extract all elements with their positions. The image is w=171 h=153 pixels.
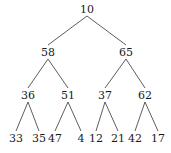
- tree-node: 37: [98, 90, 112, 101]
- tree-edges: [0, 0, 171, 153]
- tree-node: 12: [89, 133, 103, 144]
- tree-node: 33: [9, 133, 23, 144]
- tree-node: 35: [32, 133, 46, 144]
- tree-edge: [48, 59, 68, 88]
- tree-node: 65: [119, 47, 133, 58]
- tree-node: 47: [48, 133, 62, 144]
- tree-edge: [16, 102, 28, 131]
- tree-node: 4: [78, 133, 85, 144]
- tree-edge: [55, 102, 68, 131]
- tree-node: 62: [138, 90, 152, 101]
- tree-node: 51: [61, 90, 75, 101]
- tree-edge: [105, 102, 118, 131]
- tree-edge: [87, 16, 126, 45]
- tree-edge: [96, 102, 105, 131]
- tree-edge: [28, 59, 48, 88]
- tree-edge: [48, 16, 87, 45]
- tree-node: 36: [21, 90, 35, 101]
- tree-edge: [28, 102, 39, 131]
- tree-node: 42: [128, 133, 142, 144]
- tree-edge: [145, 102, 158, 131]
- tree-edge: [105, 59, 126, 88]
- tree-edge: [126, 59, 145, 88]
- tree-node: 10: [80, 4, 94, 15]
- tree-node: 58: [41, 47, 55, 58]
- tree-edge: [135, 102, 145, 131]
- tree-edge: [68, 102, 81, 131]
- tree-node: 21: [111, 133, 125, 144]
- tree-node: 17: [151, 133, 165, 144]
